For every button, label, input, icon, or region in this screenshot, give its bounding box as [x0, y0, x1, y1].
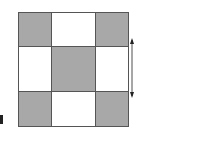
grid-cell-shaded-r3c1	[18, 91, 52, 127]
arrow-up-icon	[130, 38, 134, 44]
arrow-down-icon	[130, 92, 134, 98]
grid-cell-blank-r2c1	[18, 46, 52, 92]
checkerboard-grid	[18, 12, 128, 126]
grid-cell-shaded-r3c3	[95, 91, 129, 127]
grid-cell-blank-r2c3	[95, 46, 129, 92]
grid-cell-blank-r1c2	[51, 12, 96, 47]
middle-row-dimension-arrow	[128, 0, 138, 150]
grid-cell-shaded-r1c3	[95, 12, 129, 47]
grid-cell-shaded-r1c1	[18, 12, 52, 47]
grid-cell-shaded-r2c2	[51, 46, 96, 92]
grid-cell-blank-r3c2	[51, 91, 96, 127]
edge-mark	[0, 115, 3, 124]
